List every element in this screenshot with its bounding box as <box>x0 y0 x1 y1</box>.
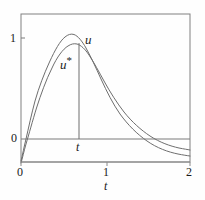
x-tick-label-two: 2 <box>186 166 192 178</box>
curve-u-star <box>21 44 190 163</box>
marker-t-label: t <box>76 141 79 153</box>
curve-label-u: u <box>85 33 92 46</box>
y-tick-label-one: 1 <box>10 32 16 44</box>
x-axis-title: t <box>104 180 107 192</box>
curve-label-u-star: u* <box>60 55 72 71</box>
zero-baseline-label: 0 <box>11 132 17 144</box>
curve-u <box>21 34 190 161</box>
x-tick-label-one: 1 <box>103 166 109 178</box>
x-tick-label-zero: 0 <box>17 166 23 178</box>
figure-container: 1 0 u u* t 0 1 2 t <box>0 0 205 200</box>
curve-label-u-star-mark: * <box>67 54 73 66</box>
